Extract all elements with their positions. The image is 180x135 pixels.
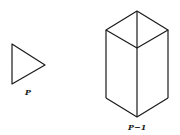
prism-label: P−1 — [127, 122, 146, 132]
diagram-canvas: P P−1 — [0, 0, 180, 135]
triangle-figure — [12, 44, 45, 84]
prism-figure — [106, 11, 168, 117]
triangle-shape — [12, 44, 45, 84]
triangle-label: P — [24, 87, 32, 97]
